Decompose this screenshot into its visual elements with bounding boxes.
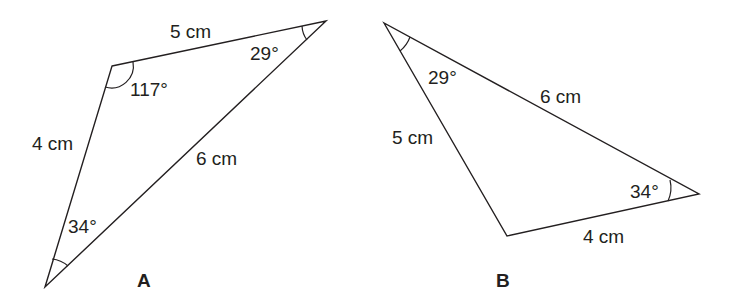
- angle-label-117: 117°: [130, 79, 168, 100]
- angle-arc-34-b: [668, 180, 671, 201]
- angle-label-29-a: 29°: [250, 43, 279, 64]
- angle-label-34-a: 34°: [68, 216, 97, 237]
- angle-arc-29-b: [400, 37, 410, 51]
- triangle-a: 5 cm 4 cm 6 cm 117° 29° 34° A: [32, 21, 326, 291]
- triangles-diagram: 5 cm 4 cm 6 cm 117° 29° 34° A 6 cm 5 cm …: [0, 0, 729, 305]
- side-label-5cm-a: 5 cm: [170, 21, 211, 42]
- triangle-a-outline: [45, 21, 326, 287]
- triangle-a-name: A: [137, 270, 151, 291]
- side-label-6cm-a: 6 cm: [196, 148, 237, 169]
- side-label-6cm-b: 6 cm: [540, 86, 581, 107]
- side-label-4cm-b: 4 cm: [583, 226, 624, 247]
- angle-label-34-b: 34°: [630, 181, 659, 202]
- angle-arc-34-a: [52, 259, 68, 266]
- angle-label-29-b: 29°: [428, 67, 457, 88]
- side-label-5cm-b: 5 cm: [392, 127, 433, 148]
- side-label-4cm-a: 4 cm: [32, 133, 73, 154]
- angle-arc-29-a: [302, 26, 307, 40]
- triangle-b: 6 cm 5 cm 4 cm 29° 34° B: [384, 23, 699, 291]
- triangle-b-name: B: [496, 270, 510, 291]
